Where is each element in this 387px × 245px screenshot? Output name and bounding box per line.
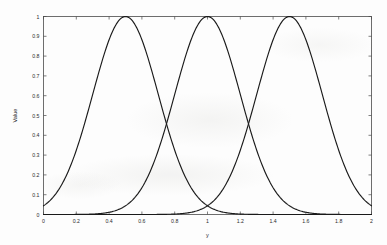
y-tick-label: 0.1 <box>32 192 39 198</box>
y-tick-label: 1 <box>37 14 40 20</box>
y-tick-label: 0.3 <box>32 152 39 158</box>
y-tick-label: 0.4 <box>32 132 39 138</box>
x-tick-label: 0 <box>42 218 45 224</box>
x-tick-label: 1 <box>206 218 209 224</box>
x-tick-label: 0.2 <box>73 218 80 224</box>
x-tick-label: 0.4 <box>105 218 112 224</box>
y-tick-label: 0 <box>37 212 40 218</box>
x-tick-label: 0.6 <box>138 218 145 224</box>
x-axis-title: y <box>206 232 209 238</box>
x-tick-label: 1.4 <box>269 218 276 224</box>
y-tick-label: 0.8 <box>32 53 39 59</box>
y-tick-label: 0.2 <box>32 172 39 178</box>
x-tick-label: 1.2 <box>237 218 244 224</box>
y-tick-label: 0.6 <box>32 93 39 99</box>
curve-mf1 <box>44 17 372 215</box>
x-tick-label: 0.8 <box>171 218 178 224</box>
curve-mf3 <box>44 17 372 215</box>
x-tick-label: 1.6 <box>302 218 309 224</box>
chart-figure: 00.20.40.60.811.21.41.61.8200.10.20.30.4… <box>0 0 387 245</box>
plot-frame <box>44 17 372 215</box>
x-tick-label: 2 <box>370 218 373 224</box>
y-tick-label: 0.7 <box>32 73 39 79</box>
plot-canvas: 00.20.40.60.811.21.41.61.8200.10.20.30.4… <box>0 0 387 245</box>
y-tick-label: 0.9 <box>32 33 39 39</box>
curve-mf2 <box>44 17 372 215</box>
x-tick-label: 1.8 <box>335 218 342 224</box>
y-axis-title: Value <box>12 109 18 123</box>
y-tick-label: 0.5 <box>32 113 39 119</box>
